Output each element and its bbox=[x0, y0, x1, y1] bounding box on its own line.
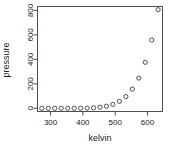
y-axis-title: pressure bbox=[1, 42, 11, 77]
y-tick-label: 800 bbox=[26, 3, 35, 17]
x-tick-label: 400 bbox=[76, 118, 90, 127]
x-tick-label: 500 bbox=[109, 118, 123, 127]
plot-canvas: 0200400600800 300400500600 kelvin pressu… bbox=[0, 0, 170, 153]
x-tick-label: 600 bbox=[141, 118, 155, 127]
y-tick-label: 400 bbox=[26, 52, 35, 66]
y-tick-label: 600 bbox=[26, 28, 35, 42]
y-tick-label: 0 bbox=[26, 106, 35, 111]
x-axis-title: kelvin bbox=[88, 133, 111, 143]
scatter-plot-figure: 0200400600800 300400500600 kelvin pressu… bbox=[0, 0, 170, 153]
figure-background bbox=[0, 0, 170, 153]
x-tick-label: 300 bbox=[44, 118, 58, 127]
y-tick-label: 200 bbox=[26, 77, 35, 91]
